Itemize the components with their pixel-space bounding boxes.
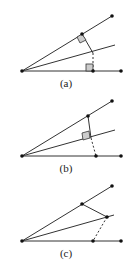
upper-end-point: [110, 14, 114, 18]
right-angle-marker: [82, 131, 90, 140]
vertex-point: [20, 154, 24, 158]
vertex-point: [20, 69, 24, 73]
upper-foot-point: [86, 114, 90, 118]
middle-point: [105, 215, 109, 219]
diagram-canvas: (a) (b) (c): [0, 0, 133, 270]
lower-end-point: [119, 154, 123, 158]
lower-foot-point: [91, 69, 95, 73]
figure-label: (c): [60, 247, 73, 260]
perpendicular-lower-dashed: [91, 138, 96, 156]
upper-ray: [22, 186, 112, 241]
bisector-ray: [22, 130, 115, 156]
figure-label: (b): [60, 162, 73, 175]
lower-foot-point: [94, 154, 98, 158]
figure-b: (b): [20, 99, 123, 175]
lower-point: [91, 239, 95, 243]
bisector-ray: [22, 45, 115, 71]
upper-end-point: [110, 99, 114, 103]
connector-upper: [82, 204, 107, 217]
lower-end-point: [119, 69, 123, 73]
figure-label: (a): [60, 77, 73, 90]
figure-c: (c): [20, 184, 123, 260]
figure-a: (a): [20, 14, 123, 90]
vertex-point: [20, 239, 24, 243]
upper-ray: [22, 101, 112, 156]
lower-end-point: [119, 239, 123, 243]
upper-foot-point: [80, 32, 84, 36]
upper-end-point: [110, 184, 114, 188]
upper-ray: [22, 16, 112, 71]
upper-point: [80, 202, 84, 206]
